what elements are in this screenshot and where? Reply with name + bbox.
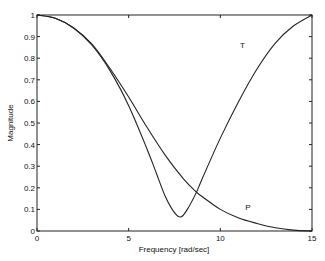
y-tick-label: 0.1: [24, 205, 36, 214]
y-tick-label: 0.7: [24, 76, 36, 85]
magnitude-chart: 00.10.20.30.40.50.60.70.80.91 051015 TP …: [0, 0, 325, 261]
x-tick-label: 15: [308, 234, 317, 243]
x-tick-label: 0: [35, 234, 40, 243]
curve-labels: TP: [240, 41, 251, 212]
curve-label-t: T: [240, 41, 245, 50]
y-tick-label: 0.4: [24, 141, 36, 150]
curve-t: [37, 15, 312, 217]
y-tick-label: 1: [31, 11, 36, 20]
x-axis-label: Frequency [rad/sec]: [139, 245, 210, 254]
x-tick-label: 10: [216, 234, 225, 243]
y-axis-label: Magnitude: [6, 104, 15, 142]
curve-label-p: P: [245, 203, 250, 212]
y-tick-label: 0.8: [24, 54, 36, 63]
curves: [37, 15, 312, 231]
curve-p: [37, 15, 312, 231]
y-tick-label: 0.6: [24, 97, 36, 106]
y-tick-label: 0.9: [24, 33, 36, 42]
y-tick-label: 0.5: [24, 119, 36, 128]
x-tick-label: 5: [126, 234, 131, 243]
plot-area-frame: [37, 15, 312, 231]
y-tick-label: 0.3: [24, 162, 36, 171]
x-axis-ticks: 051015: [35, 15, 317, 243]
y-tick-label: 0.2: [24, 184, 36, 193]
